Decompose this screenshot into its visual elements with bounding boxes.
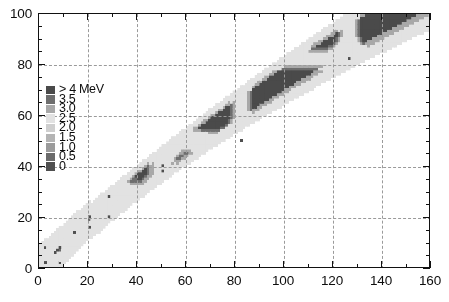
nuclear-chart-figure: 020406080100120140160 020406080100 > 4 M… — [0, 0, 449, 302]
y-tick-major-right — [423, 268, 430, 269]
x-tick-minor-top — [406, 13, 407, 17]
y-tick-minor-right — [426, 243, 430, 244]
y-tick-minor — [38, 39, 42, 40]
y-tick-label: 80 — [0, 57, 32, 72]
x-tick-major-top — [234, 13, 235, 20]
y-tick-minor — [38, 204, 42, 205]
gridline-vertical — [137, 14, 138, 267]
y-tick-minor — [38, 102, 42, 103]
y-tick-minor — [38, 128, 42, 129]
gridline-vertical — [235, 14, 236, 267]
legend-swatch — [46, 143, 55, 151]
x-tick-minor-top — [357, 13, 358, 17]
gridline-vertical — [284, 14, 285, 267]
legend-swatch — [46, 124, 55, 132]
x-tick-major-top — [332, 13, 333, 20]
legend-swatch — [46, 86, 55, 94]
x-tick-minor-top — [210, 13, 211, 17]
x-tick-label: 20 — [80, 273, 95, 288]
x-tick-major-top — [185, 13, 186, 20]
y-tick-minor — [38, 77, 42, 78]
legend-swatch — [46, 114, 55, 122]
x-tick-major — [87, 261, 88, 268]
x-tick-minor-top — [308, 13, 309, 17]
x-tick-major-top — [136, 13, 137, 20]
colorbar-legend: > 4 MeV3.53.02.52.01.51.00.50 — [46, 85, 104, 171]
x-tick-minor — [308, 264, 309, 268]
y-tick-major — [38, 115, 45, 116]
x-tick-major — [185, 261, 186, 268]
y-tick-minor-right — [426, 179, 430, 180]
legend-row: 0.5 — [46, 152, 104, 162]
figure-caption — [10, 288, 440, 296]
x-tick-label: 160 — [419, 273, 441, 288]
y-tick-major-right — [423, 217, 430, 218]
x-tick-label: 40 — [129, 273, 144, 288]
y-tick-label: 40 — [0, 159, 32, 174]
x-tick-label: 100 — [272, 273, 294, 288]
gridline-horizontal — [39, 65, 429, 66]
x-tick-major-top — [381, 13, 382, 20]
x-tick-major — [283, 261, 284, 268]
y-tick-label: 60 — [0, 108, 32, 123]
x-tick-minor — [406, 264, 407, 268]
x-tick-minor — [161, 264, 162, 268]
y-tick-minor-right — [426, 51, 430, 52]
y-tick-minor — [38, 179, 42, 180]
y-tick-minor — [38, 90, 42, 91]
gridline-horizontal — [39, 218, 429, 219]
y-tick-minor — [38, 192, 42, 193]
legend-swatch — [46, 153, 55, 161]
x-tick-minor-top — [161, 13, 162, 17]
x-tick-major — [430, 261, 431, 268]
legend-swatch — [46, 134, 55, 142]
x-tick-minor-top — [259, 13, 260, 17]
y-tick-minor-right — [426, 255, 430, 256]
x-tick-label: 0 — [34, 273, 41, 288]
y-tick-minor — [38, 51, 42, 52]
x-tick-label: 80 — [227, 273, 242, 288]
x-tick-minor — [63, 264, 64, 268]
y-tick-minor-right — [426, 26, 430, 27]
x-tick-minor — [112, 264, 113, 268]
x-tick-minor-top — [63, 13, 64, 17]
y-tick-minor-right — [426, 204, 430, 205]
y-tick-major-right — [423, 13, 430, 14]
x-tick-major — [332, 261, 333, 268]
legend-label: 0 — [59, 162, 66, 172]
y-tick-major — [38, 64, 45, 65]
y-tick-major — [38, 13, 45, 14]
y-tick-minor-right — [426, 230, 430, 231]
gridline-vertical — [186, 14, 187, 267]
y-tick-minor-right — [426, 102, 430, 103]
y-tick-minor — [38, 255, 42, 256]
x-tick-label: 60 — [178, 273, 193, 288]
y-tick-major-right — [423, 166, 430, 167]
y-tick-minor-right — [426, 153, 430, 154]
legend-swatch — [46, 95, 55, 103]
legend-swatch — [46, 162, 55, 170]
y-tick-minor-right — [426, 90, 430, 91]
x-tick-major — [136, 261, 137, 268]
y-tick-label: 20 — [0, 210, 32, 225]
x-tick-major-top — [283, 13, 284, 20]
x-tick-major-top — [430, 13, 431, 20]
x-tick-label: 120 — [321, 273, 343, 288]
y-tick-minor-right — [426, 192, 430, 193]
y-tick-major — [38, 268, 45, 269]
y-tick-label: 100 — [0, 6, 32, 21]
gridline-vertical — [333, 14, 334, 267]
legend-row: 0 — [46, 162, 104, 172]
y-tick-major-right — [423, 115, 430, 116]
y-tick-minor — [38, 141, 42, 142]
y-tick-minor — [38, 26, 42, 27]
x-tick-minor — [210, 264, 211, 268]
y-tick-minor — [38, 243, 42, 244]
legend-swatch — [46, 105, 55, 113]
x-tick-major — [234, 261, 235, 268]
y-tick-minor-right — [426, 39, 430, 40]
x-tick-minor-top — [112, 13, 113, 17]
y-tick-minor — [38, 153, 42, 154]
y-tick-minor-right — [426, 128, 430, 129]
y-tick-minor-right — [426, 141, 430, 142]
